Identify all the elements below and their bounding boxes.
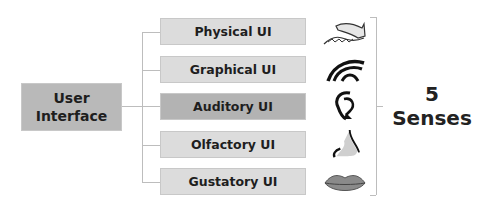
connector-physical: [142, 32, 160, 33]
user-interface-node: User Interface: [21, 83, 122, 131]
ear-icon: [322, 91, 368, 121]
connector-olfactory: [142, 145, 160, 146]
bracket-tick: [377, 106, 383, 107]
connector-root: [122, 106, 142, 107]
auditory-ui-node: Auditory UI: [160, 93, 306, 120]
connector-trunk: [142, 32, 143, 182]
senses-count: 5: [386, 82, 478, 106]
gustatory-ui-node: Gustatory UI: [160, 168, 306, 195]
bracket-bottom: [370, 195, 376, 196]
nose-icon: [322, 128, 368, 158]
senses-text: Senses: [386, 106, 478, 130]
connector-graphical: [142, 70, 160, 71]
connector-auditory: [142, 106, 160, 107]
physical-ui-node: Physical UI: [160, 18, 306, 45]
graphical-ui-node: Graphical UI: [160, 56, 306, 83]
root-label-line2: Interface: [36, 107, 108, 125]
connector-gustatory: [142, 182, 160, 183]
olfactory-ui-node: Olfactory UI: [160, 131, 306, 158]
eye-icon: [322, 55, 368, 85]
senses-label: 5 Senses: [386, 82, 478, 130]
hand-touch-icon: [322, 18, 368, 48]
root-label-line1: User: [36, 89, 108, 107]
lips-icon: [322, 168, 368, 198]
